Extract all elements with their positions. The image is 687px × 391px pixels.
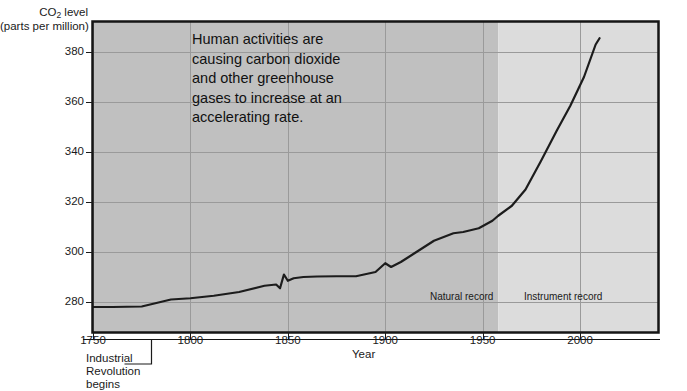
instrument-record-label: Instrument record (524, 291, 602, 302)
x-tick-label-1800: 1800 (160, 334, 220, 346)
y-tick-label-320: 320 (32, 195, 84, 207)
region-instrument-record (498, 22, 658, 332)
x-tick-label-1900: 1900 (355, 334, 415, 346)
y-tick-label-360: 360 (32, 95, 84, 107)
x-tick-label-2000: 2000 (550, 334, 610, 346)
y-tick-label-340: 340 (32, 145, 84, 157)
y-tick-label-380: 380 (32, 45, 84, 57)
human-activities-note: Human activities are causing carbon diox… (192, 30, 342, 128)
x-tick-label-1950: 1950 (453, 334, 513, 346)
x-tick-label-1750: 1750 (63, 334, 123, 346)
x-tick-label-1850: 1850 (258, 334, 318, 346)
chart-plot-area (0, 0, 687, 391)
y-tick-label-300: 300 (32, 245, 84, 257)
y-tick-label-280: 280 (32, 295, 84, 307)
co2-chart-figure: CO2 level (parts per million) Year Human… (0, 0, 687, 391)
natural-record-label: Natural record (430, 291, 493, 302)
industrial-revolution-label: Industrial Revolution begins (86, 352, 140, 391)
x-axis-title: Year (352, 348, 375, 361)
